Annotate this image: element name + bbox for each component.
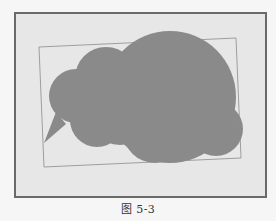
figure-caption: 图 5-3 (0, 200, 276, 216)
cloud-lobe (189, 102, 243, 156)
cloud-lobe (85, 75, 155, 145)
figure-canvas (0, 0, 276, 221)
figure: 图 5-3 (0, 0, 276, 221)
